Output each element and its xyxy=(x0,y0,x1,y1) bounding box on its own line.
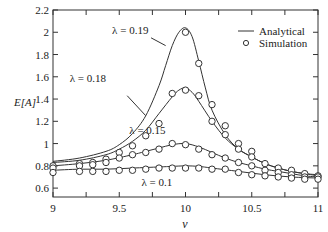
y-tick-label: 0.8 xyxy=(35,160,49,172)
y-tick-label: 2.2 xyxy=(35,4,49,16)
x-tick-label: 9.5 xyxy=(112,202,126,214)
simulation-point xyxy=(103,168,109,174)
simulation-point xyxy=(235,146,241,152)
simulation-point xyxy=(169,140,175,146)
y-tick-label: 2 xyxy=(44,26,50,38)
simulation-point xyxy=(182,87,188,93)
simulation-point xyxy=(209,152,215,158)
simulation-point xyxy=(129,167,135,173)
simulation-point xyxy=(262,173,268,179)
series-label: λ = 0.19 xyxy=(112,24,149,36)
simulation-point xyxy=(116,155,122,161)
simulation-point xyxy=(156,146,162,152)
simulation-point xyxy=(262,160,268,166)
simulation-point xyxy=(103,159,109,165)
simulation-point xyxy=(209,166,215,172)
simulation-point xyxy=(143,166,149,172)
simulation-point xyxy=(182,165,188,171)
y-axis-label: E[A] xyxy=(13,96,36,108)
y-tick-label: 1.2 xyxy=(35,115,49,127)
y-tick-label: 1 xyxy=(44,138,50,150)
simulation-point xyxy=(129,143,135,149)
simulation-point xyxy=(90,162,96,168)
y-tick-label: 1.4 xyxy=(35,93,49,105)
simulation-point xyxy=(288,175,294,181)
x-axis-label: v xyxy=(182,217,188,231)
simulation-point xyxy=(235,169,241,175)
simulation-point xyxy=(182,29,188,35)
simulation-point xyxy=(156,165,162,171)
simulation-point xyxy=(182,141,188,147)
series-label: λ = 0.18 xyxy=(70,72,107,84)
simulation-point xyxy=(90,168,96,174)
analytical-curves xyxy=(53,28,318,178)
x-tick-label: 10 xyxy=(180,202,192,214)
simulation-point xyxy=(169,165,175,171)
x-tick-label: 9 xyxy=(50,202,56,214)
legend-simulation-label: Simulation xyxy=(259,37,308,49)
simulation-point xyxy=(196,93,202,99)
simulation-point xyxy=(275,174,281,180)
simulation-point xyxy=(249,163,255,169)
analytical-curve xyxy=(53,28,318,175)
simulation-point xyxy=(222,166,228,172)
simulation-point xyxy=(302,176,308,182)
y-tick-label: 0.6 xyxy=(35,182,49,194)
simulation-point xyxy=(249,154,255,160)
simulation-point xyxy=(169,90,175,96)
simulation-points xyxy=(50,29,321,182)
simulation-point xyxy=(76,168,82,174)
simulation-point xyxy=(196,60,202,66)
simulation-point xyxy=(315,176,321,182)
simulation-point xyxy=(196,146,202,152)
simulation-point xyxy=(50,169,56,175)
x-tick-label: 10.5 xyxy=(242,202,262,214)
y-tick-label: 1.6 xyxy=(35,71,49,83)
simulation-point xyxy=(143,149,149,155)
simulation-point xyxy=(235,159,241,165)
simulation-point xyxy=(222,131,228,137)
simulation-point xyxy=(129,152,135,158)
series-label: λ = 0.15 xyxy=(129,124,166,136)
simulation-point xyxy=(249,172,255,178)
y-tick-label: 1.8 xyxy=(35,49,49,61)
legend-analytical-label: Analytical xyxy=(259,25,305,37)
simulation-point xyxy=(196,165,202,171)
simulation-point xyxy=(222,155,228,161)
series-label: λ = 0.1 xyxy=(141,176,172,188)
simulation-point xyxy=(116,167,122,173)
line-chart: 99.51010.5110.60.811.21.41.61.822.2 λ = … xyxy=(0,0,328,232)
x-tick-label: 11 xyxy=(313,202,324,214)
simulation-point xyxy=(209,118,215,124)
simulation-point xyxy=(209,101,215,107)
simulation-point xyxy=(222,123,228,129)
legend: AnalyticalSimulation xyxy=(238,25,308,49)
